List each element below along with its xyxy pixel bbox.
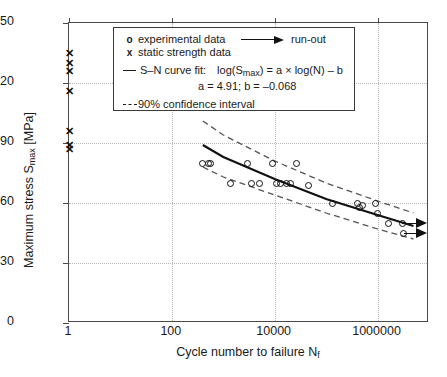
circle-marker-icon: o [121,33,138,46]
x-tick-label: 100 [126,325,216,338]
x-tick-label: 1000000 [332,325,422,338]
arrow-shaft-icon [241,39,275,40]
confidence-interval-line [203,167,414,239]
x-axis-title-sub: f [317,350,320,360]
y-axis-title-main: Maximum stress S [22,165,36,268]
x-axis-title-main: Cycle number to failure N [176,345,317,359]
solid-line-icon [121,64,138,77]
runout-arrow-shaft [402,223,417,224]
legend-row-runout: run-out [241,33,346,46]
data-point-static-strength: ✕ [65,127,74,136]
runout-arrow-head [416,218,427,228]
data-point-experimental [305,182,312,189]
data-point-experimental [256,180,263,187]
data-point-experimental [372,200,379,207]
y-tick-label: 120 [0,75,14,87]
cross-marker-icon: x [121,46,138,59]
legend-row-ci: 90% confidence interval [121,98,347,111]
y-tick-label: 150 [0,15,14,27]
x-tick-label: 1 [23,325,113,338]
data-point-experimental [374,210,381,217]
legend-label-ci: 90% confidence interval [138,98,347,111]
data-point-static-strength: ✕ [65,87,74,96]
data-point-experimental [248,180,255,187]
x-axis-title: Cycle number to failure Nf [68,345,428,360]
legend-row-fit: S–N curve fit: log(Smax) = a × log(N) – … [121,64,347,93]
y-axis-title-sub: max [27,148,37,165]
data-point-experimental [293,160,300,167]
y-tick-label: 0 [0,315,14,327]
data-point-static-strength: ✕ [65,67,74,76]
arrow-head-icon [274,36,284,44]
x-tick-label: 10000 [229,325,319,338]
confidence-interval-line [203,121,414,213]
data-point-experimental [227,180,234,187]
runout-arrow-head [416,228,427,238]
data-point-experimental [329,200,336,207]
y-axis-title-tail: [MPa] [22,112,36,148]
data-point-experimental [385,220,392,227]
dashed-line-icon [121,98,138,111]
y-axis-title: Maximum stress Smax [MPa] [22,68,37,268]
legend-fit-equation: log(Smax) = a × log(N) – b [217,64,343,76]
y-tick-mark [63,323,69,324]
legend-label-runout: run-out [291,33,326,46]
data-point-static-strength: ✕ [65,145,74,154]
y-tick-label: 30 [0,255,14,267]
data-point-experimental [207,160,214,167]
legend-box: o experimental data x static strength da… [113,27,355,111]
runout-arrow-shaft [404,233,417,234]
legend-label-fit: S–N curve fit: [140,64,206,76]
data-point-experimental [269,160,276,167]
legend-row-static: x static strength data [121,46,347,59]
data-point-experimental [244,160,251,167]
y-tick-label: 60 [0,195,14,207]
legend-fit-params: a = 4.91; b = –0.068 [140,80,347,93]
sn-curve-figure: Maximum stress Smax [MPa] Cycle number t… [0,0,447,377]
legend-label-static: static strength data [138,46,347,59]
data-point-experimental [359,202,366,209]
data-point-experimental [287,180,294,187]
y-tick-label: 90 [0,135,14,147]
